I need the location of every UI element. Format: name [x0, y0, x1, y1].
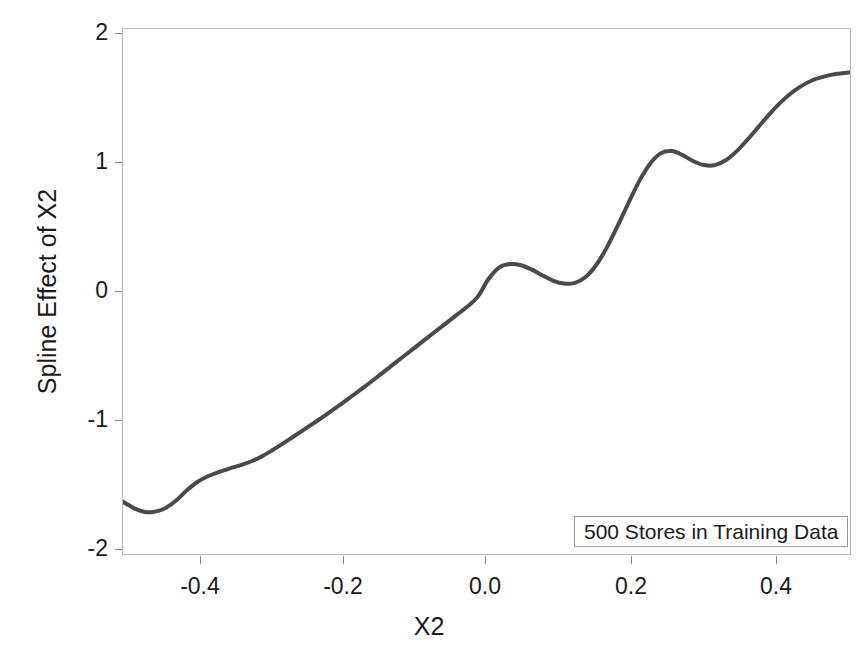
legend-label: 500 Stores in Training Data — [584, 521, 838, 542]
spline-effect-line — [123, 72, 850, 512]
y-tick-label-neg1: -1 — [68, 408, 108, 431]
x-tick-label-0.4: 0.4 — [736, 575, 816, 598]
x-tick-mark-neg0.2 — [343, 556, 344, 564]
y-tick-mark-neg2 — [115, 549, 122, 550]
x-tick-label-0.2: 0.2 — [591, 575, 671, 598]
y-tick-mark-neg1 — [115, 420, 122, 421]
legend-box: 500 Stores in Training Data — [574, 516, 848, 547]
y-tick-label-1: 1 — [78, 150, 108, 173]
y-tick-label-0: 0 — [78, 279, 108, 302]
x-tick-label-neg0.2: -0.2 — [303, 575, 383, 598]
y-tick-mark-2 — [115, 33, 122, 34]
y-tick-mark-0 — [115, 291, 122, 292]
y-axis-title: Spline Effect of X2 — [33, 28, 62, 555]
x-tick-mark-0.4 — [776, 556, 777, 564]
y-tick-mark-1 — [115, 162, 122, 163]
x-tick-label-neg0.4: -0.4 — [160, 575, 240, 598]
x-tick-label-0.0: 0.0 — [445, 575, 525, 598]
y-tick-label-2: 2 — [78, 21, 108, 44]
x-tick-mark-0.0 — [485, 556, 486, 564]
x-axis-title: X2 — [0, 612, 858, 641]
plot-area — [122, 28, 851, 555]
spline-curve-svg — [123, 29, 850, 554]
chart-container: 2 1 0 -1 -2 -0.4 -0.2 0.0 0.2 0.4 X2 Spl… — [0, 0, 858, 651]
x-tick-mark-0.2 — [631, 556, 632, 564]
x-tick-mark-neg0.4 — [200, 556, 201, 564]
y-tick-label-neg2: -2 — [68, 537, 108, 560]
